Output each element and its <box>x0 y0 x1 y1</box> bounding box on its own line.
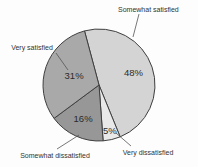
pct-label-very-satisfied: 31% <box>65 70 85 81</box>
satisfaction-pie-figure: 48%5%16%31%Somewhat satisfiedVery dissat… <box>0 0 198 167</box>
pie-chart: 48%5%16%31%Somewhat satisfiedVery dissat… <box>0 0 198 167</box>
callout-label-very-satisfied: Very satisfied <box>11 44 53 52</box>
pct-label-very-dissatisfied: 5% <box>103 125 117 136</box>
leader-line-somewhat-dissatisfied <box>57 135 79 149</box>
callout-label-very-dissatisfied: Very dissatisfied <box>123 149 174 157</box>
pct-label-somewhat-dissatisfied: 16% <box>74 113 94 124</box>
pct-label-somewhat-satisfied: 48% <box>124 67 144 78</box>
callout-label-somewhat-dissatisfied: Somewhat dissatisfied <box>20 152 90 159</box>
leader-line-somewhat-satisfied <box>133 14 139 37</box>
callout-label-somewhat-satisfied: Somewhat satisfied <box>118 6 179 13</box>
